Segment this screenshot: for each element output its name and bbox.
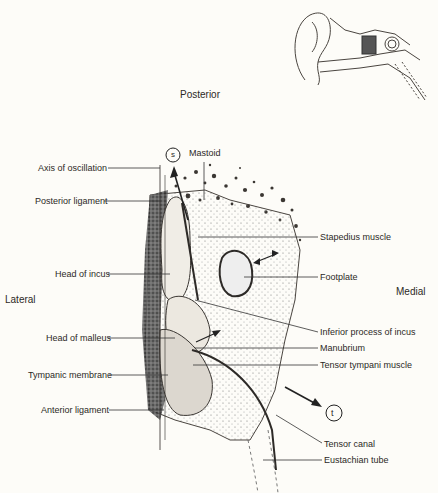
marker-t-circle <box>326 405 342 421</box>
label-inferior-process-of-incus: Inferior process of incus <box>320 327 416 337</box>
label-tensor-canal: Tensor canal <box>324 439 375 449</box>
label-eustachian-tube: Eustachian tube <box>324 455 389 465</box>
marker-t-label: t <box>331 408 334 418</box>
label-tympanic-membrane: Tympanic membrane <box>28 370 112 380</box>
label-tensor-tympani-muscle: Tensor tympani muscle <box>320 360 412 370</box>
orientation-medial: Medial <box>396 286 425 297</box>
label-head-of-incus: Head of incus <box>55 269 110 279</box>
label-posterior-ligament: Posterior ligament <box>35 196 108 206</box>
label-axis-of-oscillation: Axis of oscillation <box>38 163 107 173</box>
label-manubrium: Manubrium <box>320 343 365 353</box>
diagram-artwork <box>0 0 438 493</box>
label-footplate: Footplate <box>320 272 358 282</box>
stapes-footplate <box>220 251 253 296</box>
label-mastoid: Mastoid <box>189 148 221 158</box>
orientation-posterior: Posterior <box>180 89 220 100</box>
inset-ear-illustration <box>295 13 427 100</box>
orientation-lateral: Lateral <box>5 294 36 305</box>
label-head-of-malleus: Head of malleus <box>46 333 111 343</box>
label-anterior-ligament: Anterior ligament <box>41 405 109 415</box>
marker-s-label: s <box>171 150 175 160</box>
label-stapedius-muscle: Stapedius muscle <box>320 232 391 242</box>
